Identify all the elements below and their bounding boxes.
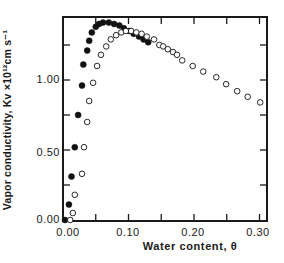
filled-data-point [86, 38, 92, 44]
open-data-point [103, 44, 109, 50]
y-tick-label-2: 1.00 [14, 73, 60, 85]
open-data-point [113, 32, 119, 38]
filled-data-point [84, 48, 90, 54]
x-tick-label-0: 0.00 [48, 226, 88, 238]
filled-data-point [89, 29, 95, 35]
open-data-point [234, 88, 240, 94]
open-data-point [86, 98, 92, 104]
open-data-point [81, 144, 87, 150]
open-data-point [90, 80, 96, 86]
open-data-point [151, 37, 157, 43]
filled-data-point [75, 112, 81, 118]
y-axis-label: Vapor conductivity, Kv ×10¹²cm s⁻¹ [1, 15, 17, 225]
x-axis-label: Water content, θ [100, 240, 280, 252]
open-data-point [72, 192, 78, 198]
filled-data-point [80, 62, 86, 68]
open-data-point [223, 81, 229, 87]
filled-data-point [106, 20, 112, 26]
data-points [62, 20, 263, 223]
filled-data-point [79, 83, 85, 89]
open-data-point [98, 52, 104, 58]
open-data-point [70, 210, 76, 216]
open-data-point [94, 63, 100, 69]
open-data-point [79, 171, 85, 177]
open-data-point [139, 31, 145, 37]
open-data-point [190, 63, 196, 69]
filled-data-point [69, 174, 75, 180]
y-tick-label-0: 0.00 [14, 213, 60, 225]
open-data-point [200, 69, 206, 75]
x-tick-label-3: 0.30 [238, 226, 278, 238]
filled-data-point [72, 144, 78, 150]
open-data-point [245, 94, 251, 100]
open-data-point [128, 28, 134, 34]
open-data-point [257, 100, 263, 106]
open-data-point [134, 30, 140, 36]
filled-data-point [100, 20, 106, 26]
y-tick-label-1: 0.50 [14, 146, 60, 158]
open-data-point [144, 34, 150, 40]
open-data-point [214, 74, 220, 80]
open-data-point [84, 119, 90, 125]
open-data-point [108, 37, 114, 43]
open-data-point [165, 46, 171, 52]
x-tick-label-2: 0.20 [173, 226, 213, 238]
x-tick-label-1: 0.10 [108, 226, 148, 238]
open-data-point [174, 52, 180, 58]
open-data-point [67, 217, 73, 223]
filled-data-point [145, 39, 151, 45]
filled-data-point [66, 202, 72, 208]
open-data-point [179, 58, 185, 64]
